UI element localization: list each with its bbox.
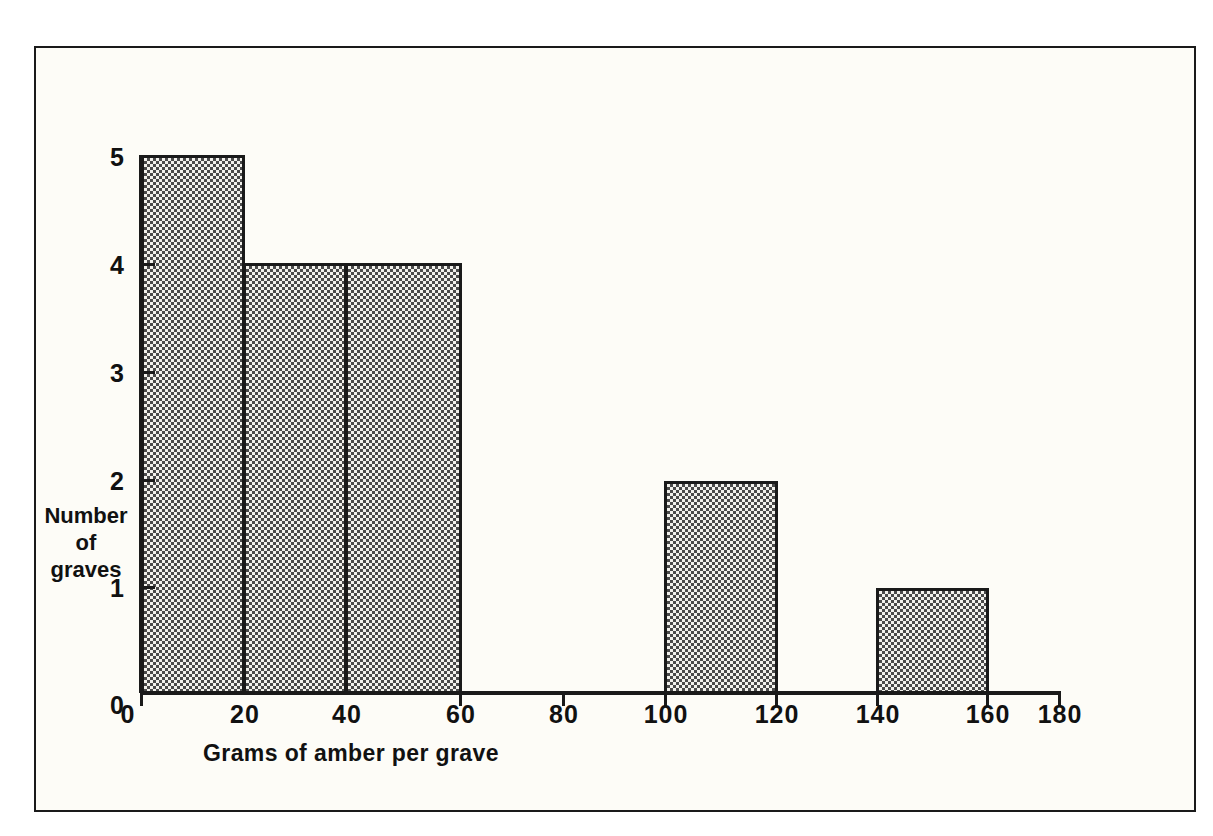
x-tick-label-120: 120 [755, 700, 800, 729]
y-tick-4 [141, 263, 155, 266]
y-tick-2 [141, 479, 155, 482]
y-tick-1 [141, 586, 155, 589]
x-tick-label-160: 160 [966, 700, 1011, 729]
histogram-bar-20-40 [243, 263, 347, 694]
y-axis-title-line-2: of [36, 530, 136, 557]
plot-area: 0 20 40 60 80 100 120 140 160 180 0 1 2 … [0, 0, 1213, 836]
histogram-bar-100-120 [664, 481, 778, 694]
histogram-bar-140-160 [876, 588, 989, 694]
y-tick-3 [141, 371, 155, 374]
y-axis-title-line-3: graves [36, 557, 136, 584]
x-tick-label-20: 20 [230, 700, 260, 729]
page-root: 0 20 40 60 80 100 120 140 160 180 0 1 2 … [0, 0, 1213, 836]
x-axis-title: Grams of amber per grave [203, 740, 499, 767]
x-tick-label-60: 60 [446, 700, 476, 729]
x-tick-label-140: 140 [856, 700, 901, 729]
x-axis-line [141, 691, 1061, 695]
histogram-bar-0-20 [141, 155, 245, 694]
x-tick-0 [140, 691, 143, 706]
y-axis-title-line-1: Number [36, 503, 136, 530]
x-tick-label-100: 100 [644, 700, 689, 729]
y-tick-label-2: 2 [110, 467, 124, 496]
y-tick-label-5: 5 [110, 143, 124, 172]
y-tick-label-3: 3 [110, 359, 124, 388]
x-tick-label-180: 180 [1038, 700, 1083, 729]
x-tick-label-80: 80 [549, 700, 579, 729]
histogram-bar-40-60 [345, 263, 462, 694]
x-tick-40 [345, 677, 348, 692]
x-tick-label-40: 40 [332, 700, 362, 729]
y-axis-line [139, 155, 143, 693]
x-tick-20 [243, 677, 246, 692]
y-axis-title: Number of graves [36, 503, 136, 583]
y-tick-label-0: 0 [110, 691, 124, 720]
y-tick-label-4: 4 [110, 251, 124, 280]
